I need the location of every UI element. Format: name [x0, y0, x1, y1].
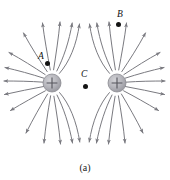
field-line: [54, 22, 60, 70]
field-line: [119, 23, 127, 70]
point-marker-c: [83, 84, 88, 89]
field-line: [60, 93, 80, 142]
field-line: [125, 81, 165, 82]
physics-figure: A B C (a): [0, 0, 170, 180]
field-line: [5, 68, 44, 79]
field-line: [109, 96, 116, 144]
field-line: [125, 86, 165, 94]
field-lines-group: [4, 22, 165, 144]
point-label-b: B: [117, 10, 123, 20]
field-line: [54, 96, 61, 144]
field-line: [59, 24, 79, 73]
field-line: [4, 81, 44, 82]
field-line: [124, 53, 160, 75]
field-line: [89, 93, 109, 142]
field-line: [109, 22, 115, 70]
point-marker-a: [45, 61, 50, 66]
field-line: [5, 86, 45, 94]
point-label-a: A: [38, 52, 44, 62]
field-line: [44, 96, 51, 143]
field-line: [90, 24, 110, 73]
point-label-c: C: [81, 70, 87, 80]
figure-caption: (a): [0, 162, 170, 173]
field-line: [125, 68, 164, 79]
field-line-diagram: [0, 0, 170, 180]
field-line: [122, 33, 146, 72]
field-line: [118, 96, 125, 143]
point-marker-b: [116, 22, 121, 27]
